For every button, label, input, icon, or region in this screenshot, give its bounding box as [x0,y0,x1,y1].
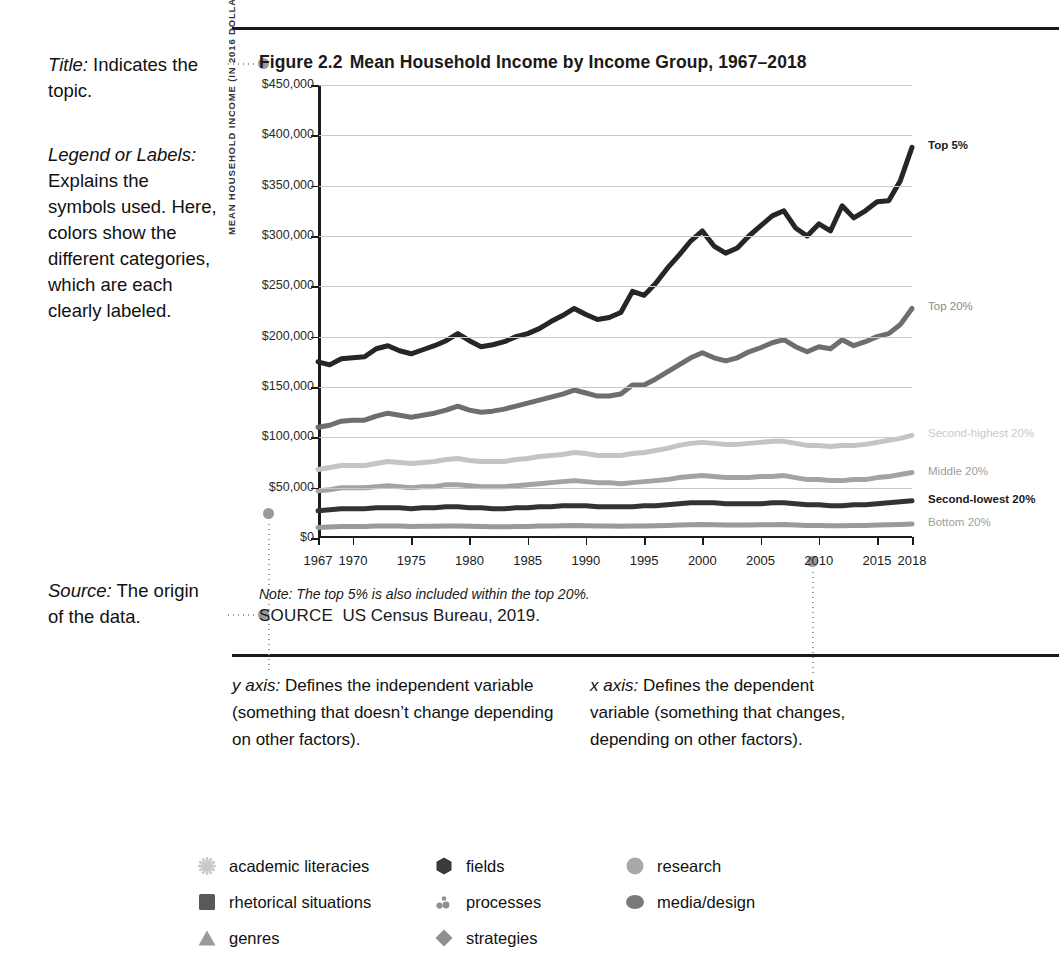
bottom-divider-rule [232,654,1059,657]
figure-page: Title: Indicates the topic. Legend or La… [0,0,1059,955]
x-axis-tick-label: 1980 [455,553,484,568]
x-axis-tick-mark [877,537,879,545]
gridline [318,286,912,287]
leader-line-x-axis [812,570,814,674]
series-line [318,308,912,427]
x-axis-tick-label: 1975 [397,553,426,568]
x-axis-tick-label: 2018 [898,553,927,568]
series-line [318,524,912,527]
chart-figure: MEAN HOUSEHOLD INCOME (IN 2016 DOLLARS) … [232,85,932,575]
footer-column-1: academic literaciesrhetorical situations… [196,848,416,955]
source-text: US Census Bureau, 2019. [342,606,540,625]
footer-legend-label: strategies [466,929,538,948]
gridline [318,337,912,338]
gridline [318,236,912,237]
chart-note: Note: The top 5% is also included within… [259,586,590,602]
gloss-title-term: Title: [48,54,88,75]
y-axis-tick-label: $150,000 [230,379,314,393]
series-line [318,501,912,511]
series-lines [318,85,912,538]
x-axis-tick-mark [586,537,588,545]
y-axis-tick-labels: $450,000$400,000$350,000$300,000$250,000… [232,85,314,538]
x-axis-tick-mark [644,537,646,545]
axis-note-y-text: Defines the independent variable (someth… [232,676,553,749]
footer-legend-item[interactable]: academic literacies [196,848,416,884]
footer-legend-item[interactable]: research [624,848,824,884]
series-label: Middle 20% [928,465,988,477]
y-axis-tick-mark [311,286,319,288]
x-axis-tick-mark [528,537,530,545]
y-axis-tick-label: $350,000 [230,178,314,192]
y-axis-tick-label: $50,000 [230,480,314,494]
footer-legend-label: fields [466,857,505,876]
gridline [318,186,912,187]
footer-legend-item[interactable]: fields [433,848,603,884]
series-label: Second-lowest 20% [928,493,1035,505]
chart-source: SOURCE US Census Bureau, 2019. [259,606,540,626]
x-axis-tick-label: 2010 [804,553,833,568]
circle-icon [624,855,646,877]
source-keyword: SOURCE [259,606,333,625]
gridline [318,387,912,388]
footer-legend-item[interactable]: processes [433,884,603,920]
ellipse-icon [624,891,646,913]
footer-legend-item[interactable]: genres [196,920,416,955]
footer-legend-label: genres [229,929,279,948]
footer-legend-label: research [657,857,721,876]
gridline [318,437,912,438]
axis-note-y-label: y axis: [232,676,280,695]
footer-legend-item[interactable]: rhetorical situations [196,884,416,920]
x-axis-tick-label: 1985 [513,553,542,568]
x-axis-tick-mark [761,537,763,545]
figure-number: Figure 2.2 [259,52,343,72]
series-label: Top 5% [928,139,968,151]
y-axis-tick-mark [311,186,319,188]
footer-column-2: fieldsprocessesstrategies [433,848,603,955]
gridline [318,135,912,136]
axis-note-x: x axis: Defines the dependent variable (… [590,672,850,753]
y-axis-tick-label: $400,000 [230,127,314,141]
dots-icon [433,891,455,913]
x-axis-tick-mark [411,537,413,545]
diamond-icon [433,927,455,949]
footer-legend-item[interactable]: strategies [433,920,603,955]
y-axis-tick-label: $0 [230,530,314,544]
asterisk-icon [196,855,218,877]
y-axis-tick-label: $100,000 [230,429,314,443]
x-axis-tick-mark [353,537,355,545]
gloss-source-term: Source: [48,580,112,601]
y-axis-tick-mark [311,437,319,439]
series-line [318,147,912,364]
triangle-icon [196,927,218,949]
gloss-note-title: Title: Indicates the topic. [48,52,218,104]
x-axis-tick-mark [702,537,704,545]
gloss-legend-term: Legend or Labels: [48,144,196,165]
x-axis-tick-mark [819,537,821,545]
figure-title: Figure 2.2Mean Household Income by Incom… [259,52,807,73]
y-axis-tick-label: $200,000 [230,329,314,343]
x-axis-tick-mark [912,537,914,545]
square-icon [196,891,218,913]
x-axis-tick-label: 1970 [338,553,367,568]
footer-legend-label: media/design [657,893,755,912]
y-axis-tick-mark [311,85,319,87]
y-axis-tick-label: $250,000 [230,278,314,292]
leader-line-source [226,614,256,616]
axis-note-y: y axis: Defines the independent variable… [232,672,562,753]
plot-area: 1967197019751980198519901995200020052010… [318,85,912,538]
figure-title-text: Mean Household Income by Income Group, 1… [350,52,807,72]
x-axis-tick-mark [318,537,320,545]
y-axis-tick-label: $300,000 [230,228,314,242]
gridline [318,85,912,86]
x-axis-tick-label: 1990 [571,553,600,568]
x-axis-tick-label: 1967 [304,553,333,568]
x-axis-tick-label: 2015 [863,553,892,568]
y-axis-tick-mark [311,387,319,389]
footer-legend-item[interactable]: media/design [624,884,824,920]
gloss-note-source: Source: The origin of the data. [48,578,218,630]
x-axis-tick-mark [469,537,471,545]
footer-legend-label: processes [466,893,541,912]
series-line [318,435,912,469]
y-axis-tick-mark [311,135,319,137]
x-axis-tick-label: 2005 [746,553,775,568]
